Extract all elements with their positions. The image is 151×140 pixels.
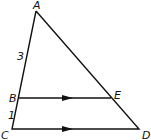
label-b: B xyxy=(9,92,17,105)
parallel-arrow-be-icon xyxy=(62,95,73,101)
label-e: E xyxy=(114,89,121,102)
label-bc-length: 1 xyxy=(8,109,15,122)
triangle-diagram: A 3 B 1 C E D xyxy=(0,0,151,140)
parallel-arrow-cd-icon xyxy=(62,126,73,132)
label-c: C xyxy=(1,129,9,140)
label-d: D xyxy=(142,129,150,140)
triangle-acd xyxy=(12,11,139,129)
label-ab-length: 3 xyxy=(17,50,24,63)
label-a: A xyxy=(32,0,41,12)
